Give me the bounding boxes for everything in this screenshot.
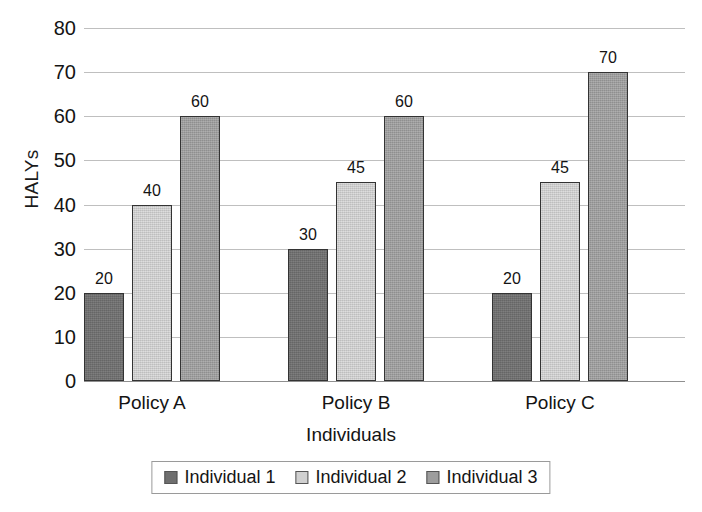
bar <box>288 249 328 381</box>
legend-item: Individual 3 <box>427 467 538 487</box>
axis-baseline <box>84 381 685 382</box>
y-axis-tick-label: 70 <box>30 62 76 82</box>
bar-value-label: 45 <box>336 160 376 176</box>
bar <box>84 293 124 381</box>
bar-value-label: 70 <box>588 50 628 66</box>
y-axis-tick-label: 80 <box>30 18 76 38</box>
bar-chart: HALYs 01020304050607080 2040603045602045… <box>0 0 702 512</box>
bar-value-label: 60 <box>180 94 220 110</box>
y-axis-tick-label: 30 <box>30 239 76 259</box>
y-axis-tick-label: 20 <box>30 283 76 303</box>
bar <box>384 116 424 381</box>
legend-label: Individual 2 <box>315 467 406 487</box>
legend: Individual 1Individual 2Individual 3 <box>151 461 550 494</box>
legend-swatch-icon <box>164 471 177 484</box>
bar-value-label: 40 <box>132 183 172 199</box>
bar-value-label: 20 <box>84 271 124 287</box>
legend-swatch-icon <box>427 471 440 484</box>
legend-item: Individual 1 <box>164 467 275 487</box>
bar <box>180 116 220 381</box>
y-axis-tick-label: 10 <box>30 327 76 347</box>
y-axis-tick-label: 60 <box>30 106 76 126</box>
x-axis-title: Individuals <box>0 424 702 446</box>
x-axis-category-label: Policy C <box>470 392 650 414</box>
bar <box>540 182 580 381</box>
y-axis-tick-label: 50 <box>30 150 76 170</box>
x-axis-category-label: Policy A <box>62 392 242 414</box>
gridline <box>84 28 685 29</box>
x-axis-category-label: Policy B <box>266 392 446 414</box>
bar-value-label: 20 <box>492 271 532 287</box>
legend-label: Individual 1 <box>184 467 275 487</box>
legend-item: Individual 2 <box>295 467 406 487</box>
y-axis-tick-label: 0 <box>30 371 76 391</box>
bar <box>132 205 172 382</box>
bar-value-label: 30 <box>288 227 328 243</box>
bar-value-label: 45 <box>540 160 580 176</box>
legend-swatch-icon <box>295 471 308 484</box>
y-axis-tick-label: 40 <box>30 195 76 215</box>
legend-label: Individual 3 <box>447 467 538 487</box>
y-axis-tick-labels: 01020304050607080 <box>20 28 76 381</box>
bar <box>588 72 628 381</box>
plot-area: 204060304560204570 <box>84 28 685 381</box>
bar <box>492 293 532 381</box>
bar-value-label: 60 <box>384 94 424 110</box>
bar <box>336 182 376 381</box>
